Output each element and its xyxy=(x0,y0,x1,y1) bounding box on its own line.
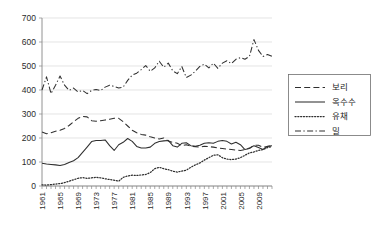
x-tick-label: 1965 xyxy=(56,191,65,209)
x-tick-label: 1973 xyxy=(92,191,101,209)
legend-label-1: 옥수수 xyxy=(332,97,356,107)
x-tick-label: 1969 xyxy=(74,191,83,209)
y-tick-label: 500 xyxy=(22,61,36,71)
y-tick-label: 700 xyxy=(22,13,36,23)
x-tick-label: 1985 xyxy=(146,191,155,209)
chart-canvas: 0100200300400500600700 19611965196919731… xyxy=(0,0,378,231)
x-tick-label: 1993 xyxy=(183,191,192,209)
legend-label-3: 밀 xyxy=(332,126,340,136)
y-tick-label: 600 xyxy=(22,37,36,47)
x-tick-label: 1997 xyxy=(201,191,210,209)
chart-legend: 보리옥수수유채밀 xyxy=(289,75,371,136)
x-tick-label: 1989 xyxy=(164,191,173,209)
x-tick-label: 1981 xyxy=(128,191,137,209)
x-tick-label: 1977 xyxy=(110,191,119,209)
x-tick-label: 2009 xyxy=(255,191,264,209)
legend-border xyxy=(289,75,371,136)
legend-label-2: 유채 xyxy=(332,111,348,121)
legend-label-0: 보리 xyxy=(332,82,348,92)
y-tick-label: 400 xyxy=(22,85,36,95)
y-tick-label: 100 xyxy=(22,157,36,167)
y-tick-label: 0 xyxy=(31,181,36,191)
x-tick-label: 2005 xyxy=(237,191,246,209)
x-tick-label: 2001 xyxy=(219,191,228,209)
y-tick-label: 300 xyxy=(22,109,36,119)
line-chart: 0100200300400500600700 19611965196919731… xyxy=(0,0,378,231)
y-tick-label: 200 xyxy=(22,133,36,143)
x-tick-label: 1961 xyxy=(38,191,47,209)
